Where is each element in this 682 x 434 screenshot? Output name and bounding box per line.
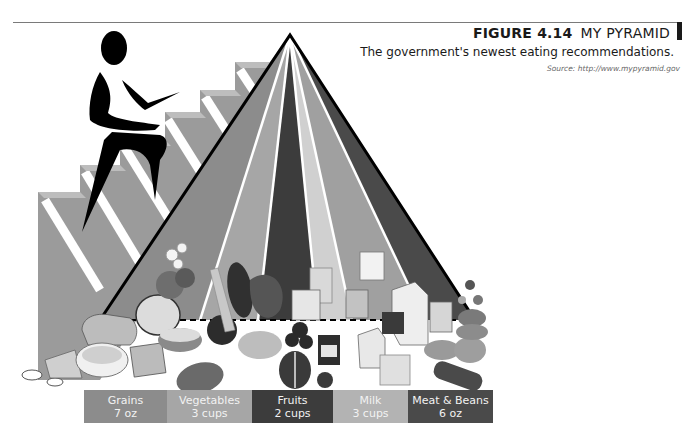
chicken-icon [454,337,486,363]
nuts-icon [456,309,488,340]
meat-icon [431,359,484,393]
food-group-amount: 3 cups [191,407,227,420]
food-group-name: Milk [360,394,382,407]
food-group-fruits: Fruits 2 cups [252,390,333,423]
food-group-labels: Grains 7 oz Vegetables 3 cups Fruits 2 c… [84,390,493,423]
food-group-grains: Grains 7 oz [84,390,167,423]
food-group-amount: 7 oz [114,407,137,420]
crackers-icon [130,343,166,377]
soup-bowl-icon [158,328,202,352]
yogurt-glass-icon [346,290,368,318]
food-group-meat-beans: Meat & Beans 6 oz [408,390,493,423]
pyramid-illustration [0,0,682,434]
food-group-name: Meat & Beans [412,394,489,407]
corn-icon [238,331,282,359]
food-group-milk: Milk 3 cups [333,390,408,423]
raisins-box-icon [318,335,340,365]
jar-icon [360,252,384,280]
pudding-cup-icon [382,312,404,334]
food-group-name: Vegetables [179,394,240,407]
food-group-amount: 6 oz [439,407,462,420]
strawberry-icon [317,372,333,388]
food-group-amount: 3 cups [352,407,388,420]
food-group-name: Grains [108,394,144,407]
peaches-can-icon [292,290,320,320]
food-group-amount: 2 cups [274,407,310,420]
apple-icon [279,351,311,389]
cereal-bowl-icon [76,343,128,377]
peanut-butter-jar-icon [430,302,452,332]
cheese-icon [380,355,410,385]
grapes-icon [285,322,313,349]
food-group-vegetables: Vegetables 3 cups [167,390,252,423]
food-group-name: Fruits [277,394,307,407]
bread-icon [82,314,137,345]
beans-icon [458,280,483,305]
